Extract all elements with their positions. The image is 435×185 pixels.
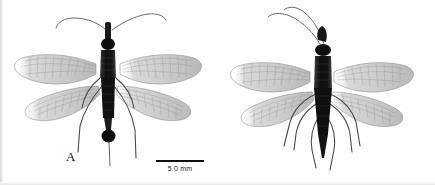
specimen-panel-b: B 5.0 mm <box>218 0 435 185</box>
wing-left-fore-b <box>231 63 311 92</box>
specimen-b-head <box>317 26 327 42</box>
wing-left-fore-a <box>15 55 97 84</box>
specimen-b-prothorax <box>315 44 331 56</box>
specimen-a-prothorax <box>101 38 115 50</box>
specimen-panel-a: A 5.0 mm <box>0 0 218 185</box>
specimen-b-abdomen-tip <box>318 134 328 158</box>
specimen-a-wings <box>15 55 219 121</box>
specimen-a-illustration <box>0 0 218 185</box>
scale-bar-label-a: 5.0 mm <box>156 165 204 172</box>
scale-bar-a: 5.0 mm <box>156 160 204 172</box>
specimen-b-abdomen <box>314 88 332 134</box>
wing-right-fore-b <box>334 63 414 92</box>
specimen-b-antennae <box>268 7 324 44</box>
specimen-b-body <box>314 26 332 158</box>
specimen-a-abdomen-tip <box>104 118 112 130</box>
scale-bar-line-a <box>156 160 204 162</box>
specimen-b-illustration <box>218 0 435 185</box>
figure-plate: A 5.0 mm <box>0 0 435 185</box>
specimen-a-terminal-filament <box>109 142 110 166</box>
specimen-a-head <box>105 22 111 40</box>
specimen-a-body <box>100 22 116 166</box>
wing-right-fore-a <box>120 55 218 84</box>
wing-left-hind-b <box>241 92 314 127</box>
wing-right-hind-b <box>330 92 403 127</box>
specimen-a-genital-bulb <box>102 130 116 143</box>
panel-label-a: A <box>66 149 75 165</box>
specimen-a-abdomen <box>101 78 115 118</box>
